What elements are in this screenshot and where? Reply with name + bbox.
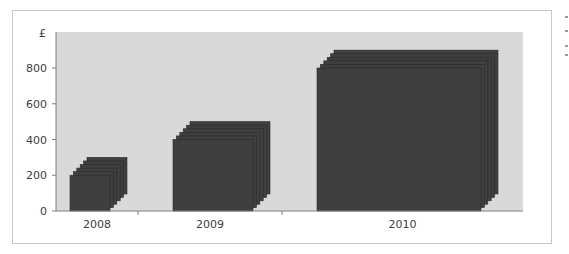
bar-layer-2010	[317, 68, 481, 211]
bar-layer-2008	[70, 175, 110, 211]
y-tick-label: 0	[40, 205, 47, 218]
y-tick-label: 200	[26, 169, 47, 182]
clipped-text-fragment	[565, 54, 568, 56]
clipped-text-fragment	[565, 16, 568, 18]
clipped-text-fragment	[565, 30, 568, 32]
x-labels-group: 200820092010	[83, 211, 417, 231]
y-tick-label: 800	[26, 62, 47, 75]
x-tick-label: 2010	[389, 218, 417, 231]
x-tick-label: 2009	[196, 218, 224, 231]
y-ticks-group: 0200400600800	[26, 62, 56, 218]
x-tick-label: 2008	[83, 218, 111, 231]
y-tick-label: 600	[26, 98, 47, 111]
y-tick-label: 400	[26, 134, 47, 147]
bar-chart: 0200400600800 200820092010 £	[0, 0, 569, 254]
y-unit-label: £	[39, 27, 46, 40]
bar-layer-2009	[173, 140, 253, 212]
clipped-text-fragment	[565, 45, 568, 47]
